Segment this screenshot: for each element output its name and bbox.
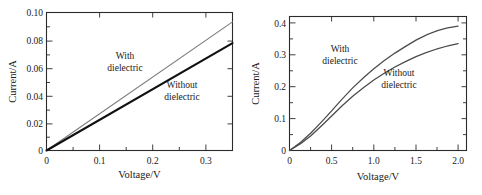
left-y-ticklabel-3: 0.06 (26, 64, 43, 74)
right-annot-with-line2: dielectric (322, 56, 357, 66)
right-y-major-ticks (290, 23, 296, 151)
left-y-ticklabel-1: 0.02 (26, 119, 43, 129)
left-x-ticklabel-0: 0 (44, 156, 49, 166)
left-plot-svg: 0 0.02 0.04 0.06 0.08 0.10 0 0.1 0.2 0.3… (0, 0, 241, 195)
right-annot-without-line1: Without (384, 68, 415, 78)
left-y-ticklabel-4: 0.08 (26, 36, 43, 46)
left-x-ticklabel-1: 0.1 (94, 156, 106, 166)
right-curve-without-dielectric (290, 44, 459, 151)
chart-panel-left: 0 0.02 0.04 0.06 0.08 0.10 0 0.1 0.2 0.3… (0, 0, 241, 195)
left-y-ticklabel-2: 0.04 (26, 92, 43, 102)
left-annotation-without-dielectric: Without dielectric (164, 80, 199, 102)
right-y-ticklabel-3: 0.3 (274, 50, 286, 60)
left-right-edge-ticks (228, 41, 233, 124)
right-x-ticklabel-1: 0.5 (326, 156, 338, 166)
right-y-ticklabel-1: 0.1 (274, 114, 286, 124)
left-curve-without-dielectric (47, 43, 233, 150)
left-y-axis-title: Current/A (7, 60, 18, 103)
right-y-ticklabels: 0 0.1 0.2 0.3 0.4 (274, 19, 286, 156)
right-annot-without-line2: dielectric (381, 80, 416, 90)
right-right-edge-ticks (462, 23, 467, 135)
left-curve-with-dielectric (47, 22, 233, 151)
left-annotation-with-dielectric: With dielectric (107, 51, 142, 73)
right-top-edge-ticks (332, 17, 459, 22)
figure-container: 0 0.02 0.04 0.06 0.08 0.10 0 0.1 0.2 0.3… (0, 0, 482, 195)
right-annot-with-line1: With (331, 44, 350, 54)
left-y-ticklabel-5: 0.10 (26, 8, 43, 18)
left-annot-with-line2: dielectric (107, 63, 142, 73)
right-x-ticklabel-0: 0 (287, 156, 292, 166)
right-x-ticklabel-3: 1.5 (410, 156, 422, 166)
left-annot-without-line2: dielectric (164, 92, 199, 102)
left-x-axis-title: Voltage/V (118, 169, 161, 180)
right-x-major-ticks (290, 145, 459, 151)
right-annotation-without-dielectric: Without dielectric (381, 68, 416, 90)
right-annotation-with-dielectric: With dielectric (322, 44, 357, 66)
left-plot-frame (47, 13, 233, 151)
left-x-ticklabels: 0 0.1 0.2 0.3 (44, 156, 212, 166)
right-x-ticklabel-2: 1.0 (368, 156, 380, 166)
left-annot-with-line1: With (116, 51, 135, 61)
right-x-ticklabels: 0 0.5 1.0 1.5 2.0 (287, 156, 464, 166)
right-y-ticklabel-0: 0 (281, 146, 286, 156)
left-y-major-ticks (47, 13, 53, 151)
right-y-ticklabel-2: 0.2 (274, 82, 286, 92)
left-y-ticklabel-0: 0 (38, 146, 43, 156)
right-plot-svg: 0 0.1 0.2 0.3 0.4 0 0.5 1.0 1.5 2.0 Volt… (241, 0, 482, 195)
left-y-ticklabels: 0 0.02 0.04 0.06 0.08 0.10 (26, 8, 43, 156)
chart-panel-right: 0 0.1 0.2 0.3 0.4 0 0.5 1.0 1.5 2.0 Volt… (241, 0, 482, 195)
left-x-ticklabel-3: 0.3 (200, 156, 212, 166)
left-x-ticklabel-2: 0.2 (147, 156, 159, 166)
left-annot-without-line1: Without (167, 80, 198, 90)
right-y-axis-title: Current/A (250, 62, 261, 105)
left-top-edge-ticks (100, 13, 206, 18)
right-x-axis-title: Voltage/V (357, 171, 400, 182)
right-y-ticklabel-4: 0.4 (274, 19, 286, 29)
right-x-ticklabel-4: 2.0 (452, 156, 464, 166)
